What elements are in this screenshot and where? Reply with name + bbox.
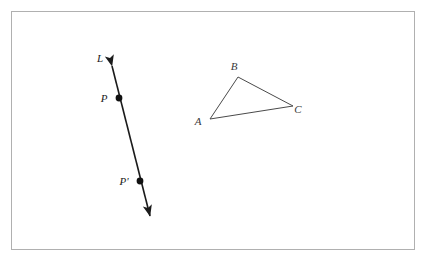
triangle-ABC-group: A B C bbox=[194, 60, 303, 127]
triangle-ABC-shape bbox=[210, 77, 293, 119]
label-point-P-prime: P' bbox=[118, 175, 129, 187]
label-vertex-B: B bbox=[231, 60, 238, 72]
point-P-prime bbox=[137, 178, 144, 185]
label-vertex-A: A bbox=[194, 115, 202, 127]
label-point-P: P bbox=[100, 92, 108, 104]
figure-border bbox=[12, 12, 415, 250]
label-line-L: L bbox=[96, 52, 103, 64]
geometry-figure: L P P' A B C bbox=[0, 0, 427, 263]
label-vertex-C: C bbox=[294, 103, 302, 115]
line-L-segment bbox=[112, 66, 150, 216]
line-L-group: L P P' bbox=[96, 52, 150, 216]
point-P bbox=[116, 95, 123, 102]
figure-canvas: L P P' A B C bbox=[0, 0, 427, 263]
